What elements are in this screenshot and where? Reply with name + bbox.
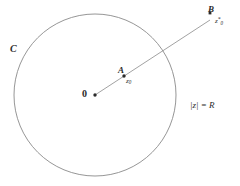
point-b-value: z*0 bbox=[215, 17, 223, 26]
complex-plane-inversion-diagram: C 0 A z0 B z*0 |z| = R bbox=[0, 0, 240, 186]
diagram-canvas bbox=[0, 0, 240, 186]
point-b-value-subscript: 0 bbox=[220, 21, 223, 26]
ray-origin-to-B bbox=[95, 20, 210, 95]
point-a-value-subscript: 0 bbox=[129, 80, 132, 85]
circle-equation-label: |z| = R bbox=[190, 101, 215, 110]
origin-label: 0 bbox=[82, 89, 87, 99]
point-b-label: B bbox=[208, 5, 214, 14]
point-a-label: A bbox=[118, 66, 124, 75]
point-a-value: z0 bbox=[126, 78, 131, 85]
circle-label-C: C bbox=[10, 44, 17, 54]
origin-point-marker bbox=[93, 93, 96, 96]
